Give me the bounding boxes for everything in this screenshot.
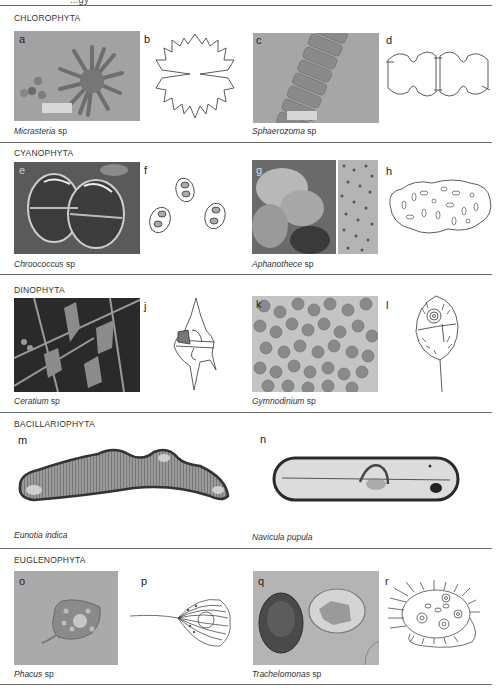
- caption-trachelomonas: Trachelomonas sp: [252, 669, 321, 679]
- caption-micrasteria: Micrasteria sp: [14, 126, 67, 136]
- divider: [0, 684, 492, 685]
- section-title: DINOPHYTA: [14, 285, 65, 295]
- trachelomonas-photo-icon: [253, 571, 379, 665]
- sphaerozoma-photo-icon: [253, 33, 379, 123]
- drawing-chroococcus: [145, 176, 245, 242]
- phacus-photo-icon: [14, 571, 118, 665]
- drawing-sphaerozoma: [384, 46, 492, 102]
- panel-letter-l: l: [386, 299, 388, 311]
- panel-letter-o: o: [19, 575, 25, 587]
- gymnodinium-photo-icon: [252, 296, 378, 392]
- eunotia-photo-icon: [14, 444, 234, 508]
- chroococcus-photo-icon: [14, 162, 140, 254]
- micrograph-gymnodinium: [252, 296, 378, 392]
- gymnodinium-drawing-icon: [414, 294, 460, 394]
- caption-gymnodinium: Gymnodinium sp: [252, 396, 316, 406]
- caption-phacus: Phacus sp: [14, 669, 54, 679]
- aphanothece-drawing-icon: [384, 175, 494, 237]
- ceratium-photo-icon: [14, 298, 140, 392]
- divider: [0, 142, 492, 143]
- caption-chroococcus: Chroococcus sp: [14, 259, 75, 269]
- drawing-aphanothece: [384, 175, 494, 237]
- divider: [0, 274, 492, 275]
- caption-eunotia: Eunotia indica: [14, 530, 67, 540]
- micrograph-chroococcus: [14, 162, 140, 254]
- panel-letter-p: p: [141, 575, 147, 587]
- panel-letter-a: a: [19, 33, 25, 45]
- caption-navicula: Navicula pupula: [252, 532, 312, 542]
- caption-sphaerozoma: Sphaerozoma sp: [252, 126, 316, 136]
- aphanothece-photo-icon: [252, 160, 378, 254]
- panel-letter-d: d: [386, 34, 392, 46]
- panel-letter-n: n: [260, 433, 266, 445]
- phacus-drawing-icon: [128, 596, 232, 650]
- micrograph-navicula: [272, 456, 462, 506]
- section-title: BACILLARIOPHYTA: [14, 419, 95, 429]
- caption-ceratium: Ceratium sp: [14, 396, 60, 406]
- ceratium-drawing-icon: [170, 296, 220, 392]
- panel-letter-f: f: [144, 164, 147, 176]
- divider: [0, 412, 492, 413]
- micrograph-aphanothece: [252, 160, 378, 254]
- divider: [0, 5, 492, 6]
- divider: [0, 548, 492, 549]
- drawing-ceratium: [170, 296, 220, 392]
- micrograph-phacus: [14, 571, 118, 665]
- micrasteria-photo-icon: [14, 31, 140, 121]
- drawing-phacus: [128, 596, 232, 650]
- panel-letter-g: g: [256, 164, 262, 176]
- chroococcus-drawing-icon: [145, 176, 245, 242]
- caption-aphanothece: Aphanothece sp: [252, 259, 313, 269]
- trachelomonas-drawing-icon: [384, 578, 484, 658]
- section-title: CYANOPHYTA: [14, 148, 73, 158]
- navicula-photo-icon: [272, 456, 462, 506]
- panel-letter-j: j: [144, 300, 146, 312]
- panel-letter-c: c: [256, 34, 262, 46]
- micrograph-trachelomonas: [253, 571, 379, 665]
- panel-letter-q: q: [258, 575, 264, 587]
- micrograph-sphaerozoma: [253, 33, 379, 123]
- drawing-gymnodinium: [414, 294, 460, 394]
- micrasterias-drawing-icon: [150, 30, 240, 122]
- panel-letter-e: e: [19, 164, 25, 176]
- sphaerozoma-drawing-icon: [384, 46, 492, 102]
- micrograph-eunotia: [14, 444, 234, 508]
- micrograph-micrasteria: [14, 31, 140, 121]
- drawing-trachelomonas: [384, 578, 484, 658]
- drawing-micrasterias: [150, 30, 240, 122]
- section-title: EUGLENOPHYTA: [14, 555, 86, 565]
- micrograph-ceratium: [14, 298, 140, 392]
- panel-letter-k: k: [256, 298, 262, 310]
- section-title: CHLOROPHYTA: [14, 13, 80, 23]
